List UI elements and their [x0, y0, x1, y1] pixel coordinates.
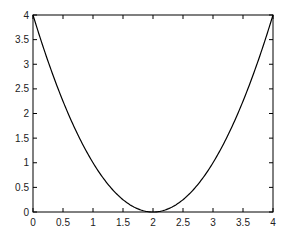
y-axis-ticks: 00.511.522.533.54 [15, 10, 273, 218]
x-axis-ticks: 00.511.522.533.54 [30, 15, 276, 228]
y-tick-label: 2.5 [15, 83, 29, 94]
data-line [33, 15, 273, 212]
y-tick-label: 3 [23, 59, 29, 70]
plot-frame [33, 15, 273, 212]
x-tick-label: 3.5 [236, 217, 250, 228]
y-tick-label: 0.5 [15, 182, 29, 193]
y-tick-label: 2 [23, 108, 29, 119]
x-tick-label: 0 [30, 217, 36, 228]
y-tick-label: 4 [23, 10, 29, 21]
x-tick-label: 0.5 [56, 217, 70, 228]
y-tick-label: 1 [23, 157, 29, 168]
y-tick-label: 0 [23, 207, 29, 218]
y-tick-label: 3.5 [15, 34, 29, 45]
x-tick-label: 3 [210, 217, 216, 228]
line-chart: 00.511.522.533.54 00.511.522.533.54 [0, 0, 288, 233]
x-tick-label: 2 [150, 217, 156, 228]
y-tick-label: 1.5 [15, 133, 29, 144]
x-tick-label: 4 [270, 217, 276, 228]
x-tick-label: 2.5 [176, 217, 190, 228]
x-tick-label: 1 [90, 217, 96, 228]
x-tick-label: 1.5 [116, 217, 130, 228]
